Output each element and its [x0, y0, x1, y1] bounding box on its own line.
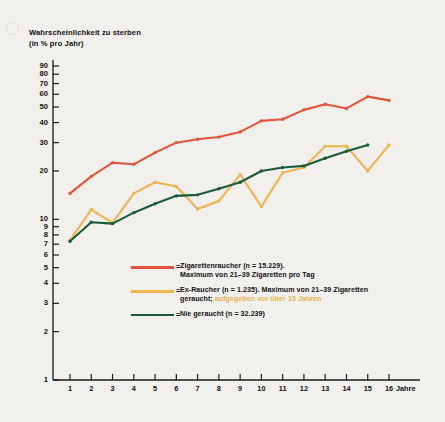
series-point-never-4 [132, 211, 135, 214]
x-axis-tick-label-11: 11 [273, 384, 293, 393]
series-point-exsmoker-6 [175, 185, 178, 188]
series-point-exsmoker-5 [153, 181, 156, 184]
x-axis-tick-label-15: 15 [358, 384, 378, 393]
series-point-exsmoker-4 [132, 192, 135, 195]
series-point-exsmoker-8 [217, 199, 220, 202]
y-axis-tick-label-30: 30 [26, 138, 48, 147]
legend-label-never: Nie geraucht (n = 32.239) [180, 310, 411, 319]
series-point-exsmoker-7 [196, 207, 199, 210]
series-point-never-10 [260, 169, 263, 172]
legend-exsmoker-highlight: aufgegeben vor über 15 Jahren [215, 295, 322, 303]
legend-exsmoker-line1: Ex-Raucher (n = 1.235). Maximum von 21–3… [180, 286, 368, 294]
legend-swatch-smoker [131, 266, 174, 269]
series-point-exsmoker-13 [324, 145, 327, 148]
y-axis-tick-label-2: 2 [26, 327, 48, 336]
series-point-never-9 [238, 181, 241, 184]
legend-item-smoker: = Zigarettenraucher (n = 15.229). Maximu… [131, 262, 411, 280]
series-point-smoker-4 [132, 163, 135, 166]
series-point-smoker-8 [217, 135, 220, 138]
x-axis-tick-label-2: 2 [81, 384, 101, 393]
legend-item-never: = Nie geraucht (n = 32.239) [131, 310, 411, 319]
legend-exsmoker-line2: geraucht; [180, 295, 215, 303]
series-point-never-8 [217, 187, 220, 190]
legend-never-line1: Nie geraucht (n = 32.239) [180, 310, 265, 318]
legend-label-exsmoker: Ex-Raucher (n = 1.235). Maximum von 21–3… [180, 286, 411, 304]
x-axis-tick-label-9: 9 [230, 384, 250, 393]
series-point-never-7 [196, 193, 199, 196]
series-point-never-14 [345, 150, 348, 153]
series-line-exsmoker [70, 145, 389, 240]
legend-equals-never: = [176, 311, 180, 319]
series-point-exsmoker-14 [345, 145, 348, 148]
x-axis-tick-label-8: 8 [209, 384, 229, 393]
series-point-never-15 [366, 143, 369, 146]
series-point-exsmoker-9 [238, 173, 241, 176]
series-point-smoker-2 [90, 175, 93, 178]
x-axis-tick-label-1: 1 [60, 384, 80, 393]
y-axis-tick-label-8: 8 [26, 230, 48, 239]
series-point-smoker-11 [281, 117, 284, 120]
series-point-exsmoker-11 [281, 171, 284, 174]
series-point-smoker-12 [302, 108, 305, 111]
x-axis-unit-label: Jahre [396, 384, 415, 393]
y-axis-tick-label-80: 80 [26, 69, 48, 78]
series-line-never [70, 145, 368, 241]
x-axis-tick-label-12: 12 [294, 384, 314, 393]
series-point-exsmoker-15 [366, 169, 369, 172]
series-point-smoker-14 [345, 107, 348, 110]
series-line-smoker [70, 97, 389, 194]
y-axis-tick-label-5: 5 [26, 263, 48, 272]
series-point-smoker-3 [111, 161, 114, 164]
series-point-never-2 [90, 220, 93, 223]
series-point-never-3 [111, 222, 114, 225]
series-point-smoker-10 [260, 119, 263, 122]
legend-equals-smoker: = [176, 263, 180, 271]
legend-swatch-exsmoker [131, 290, 174, 293]
chart-page: Wahrscheinlichkeit zu sterben(in % pro J… [0, 0, 445, 422]
legend-swatch-never [131, 314, 174, 317]
x-axis-tick-label-7: 7 [188, 384, 208, 393]
series-point-smoker-16 [387, 99, 390, 102]
x-axis-tick-label-5: 5 [145, 384, 165, 393]
legend-item-exsmoker: = Ex-Raucher (n = 1.235). Maximum von 21… [131, 286, 411, 304]
series-point-smoker-9 [238, 130, 241, 133]
x-axis-tick-label-3: 3 [103, 384, 123, 393]
series-point-exsmoker-16 [387, 143, 390, 146]
series-point-smoker-6 [175, 141, 178, 144]
x-axis-tick-label-4: 4 [124, 384, 144, 393]
series-point-never-13 [324, 157, 327, 160]
legend-label-smoker: Zigarettenraucher (n = 15.229). Maximum … [180, 262, 411, 280]
chart-legend: = Zigarettenraucher (n = 15.229). Maximu… [131, 262, 411, 325]
chart-plot-area [0, 0, 445, 422]
x-axis-tick-label-14: 14 [336, 384, 356, 393]
series-point-smoker-7 [196, 138, 199, 141]
series-point-smoker-13 [324, 103, 327, 106]
series-point-smoker-5 [153, 151, 156, 154]
series-point-smoker-1 [68, 192, 71, 195]
legend-smoker-line1: Zigarettenraucher (n = 15.229). [180, 262, 285, 270]
y-axis-tick-label-3: 3 [26, 298, 48, 307]
series-point-exsmoker-10 [260, 205, 263, 208]
y-axis-tick-label-50: 50 [26, 102, 48, 111]
series-point-exsmoker-2 [90, 208, 93, 211]
series-point-never-1 [68, 240, 71, 243]
y-axis-tick-label-1: 1 [26, 375, 48, 384]
y-axis-tick-label-70: 70 [26, 79, 48, 88]
y-axis-tick-label-60: 60 [26, 89, 48, 98]
series-point-never-5 [153, 202, 156, 205]
y-axis-tick-label-4: 4 [26, 278, 48, 287]
series-point-never-6 [175, 194, 178, 197]
y-axis-tick-label-7: 7 [26, 239, 48, 248]
y-axis-tick-label-20: 20 [26, 166, 48, 175]
y-axis-tick-label-6: 6 [26, 250, 48, 259]
x-axis-tick-label-13: 13 [315, 384, 335, 393]
series-point-never-11 [281, 166, 284, 169]
legend-equals-exsmoker: = [176, 287, 180, 295]
x-axis-tick-label-10: 10 [251, 384, 271, 393]
legend-smoker-line2: Maximum von 21–39 Zigaretten pro Tag [180, 271, 315, 279]
y-axis-tick-label-40: 40 [26, 118, 48, 127]
series-point-never-12 [302, 164, 305, 167]
x-axis-tick-label-6: 6 [166, 384, 186, 393]
series-point-smoker-15 [366, 95, 369, 98]
